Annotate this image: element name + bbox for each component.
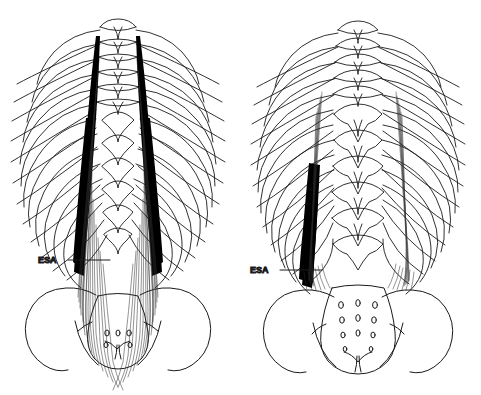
- anatomy-figure: ESA: [0, 0, 481, 395]
- anatomical-illustration: ESA: [0, 0, 481, 395]
- right-esa-label: ESA: [250, 265, 269, 275]
- figure-background: [0, 0, 481, 395]
- left-esa-label: ESA: [38, 255, 57, 265]
